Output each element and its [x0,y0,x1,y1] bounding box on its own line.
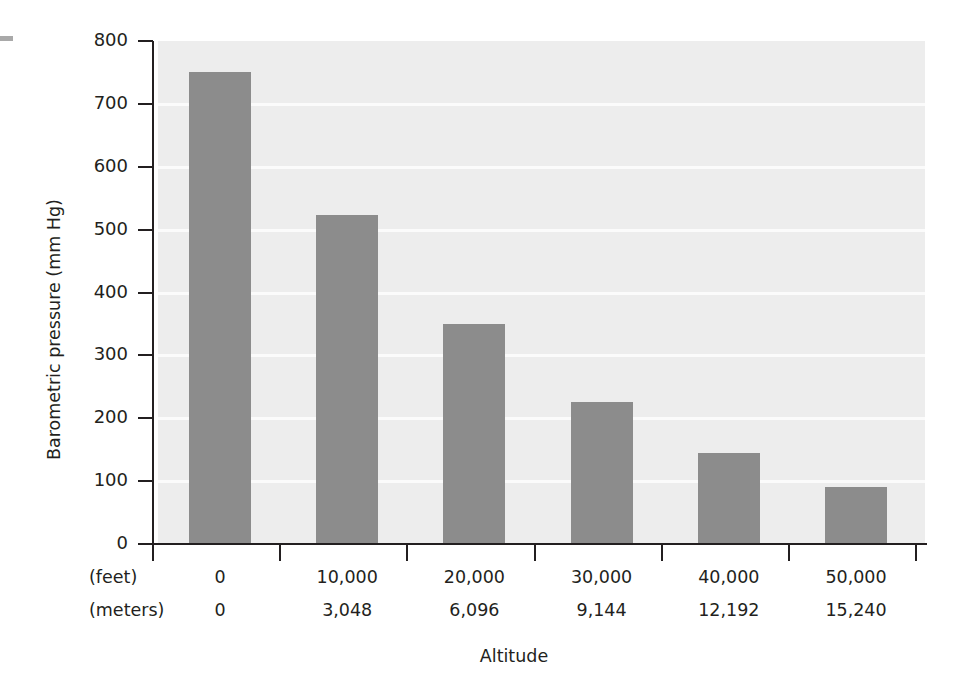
y-axis-tick [138,417,153,419]
bar [443,324,505,544]
y-axis-tick [138,166,153,168]
y-axis-tick-label: 0 [60,534,128,552]
x-axis-title: Altitude [0,646,968,666]
x-axis-tick-label-meters: 15,240 [786,600,926,620]
x-axis-tick-label-meters: 3,048 [277,600,417,620]
y-axis-tick [138,292,153,294]
y-axis-tick [138,354,153,356]
y-axis-tick-label: 200 [60,408,128,426]
y-axis-tick-label: 600 [60,157,128,175]
x-axis-tick-label-meters: 12,192 [659,600,799,620]
x-axis-tick [788,544,790,561]
x-axis-tick [661,544,663,561]
bar [825,487,887,544]
chart-figure: Barometric pressure (mm Hg) 800700600500… [0,0,968,697]
x-axis-tick-label-feet: 10,000 [277,567,417,587]
bar [189,72,251,544]
y-axis-tick-label: 100 [60,471,128,489]
bar [571,402,633,544]
x-axis-tick [152,544,154,561]
y-axis-tick [138,103,153,105]
x-axis-tick-label-meters: 9,144 [532,600,672,620]
x-axis-tick [279,544,281,561]
y-axis-tick-label: 300 [60,345,128,363]
x-axis-tick-label-feet: 40,000 [659,567,799,587]
page-edge-mark [0,36,13,41]
x-axis-tick-label-meters: 0 [150,600,290,620]
x-axis-tick-label-feet: 30,000 [532,567,672,587]
x-axis-title-text: Altitude [480,646,548,666]
x-axis-tick [406,544,408,561]
y-axis-tick-label: 800 [60,31,128,49]
y-axis-tick [138,480,153,482]
x-axis-unit-feet: (feet) [89,567,137,587]
x-axis-tick [915,544,917,561]
x-axis-tick-label-feet: 20,000 [404,567,544,587]
bar [698,453,760,544]
x-axis-tick [534,544,536,561]
y-axis-tick [138,229,153,231]
x-axis-tick-label-meters: 6,096 [404,600,544,620]
y-axis-tick-label: 500 [60,220,128,238]
y-axis-tick-label: 400 [60,283,128,301]
y-axis-tick [138,40,153,42]
y-axis-tick-label: 700 [60,94,128,112]
x-axis-tick-label-feet: 50,000 [786,567,926,587]
bar [316,215,378,544]
y-axis-tick [138,543,153,545]
x-axis-line [152,543,927,545]
x-axis-tick-label-feet: 0 [150,567,290,587]
bar-series [152,41,927,544]
